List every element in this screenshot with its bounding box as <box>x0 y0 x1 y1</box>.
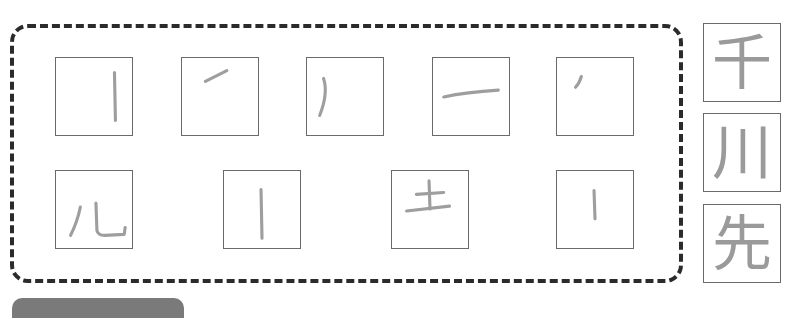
dot-stroke-icon <box>557 58 633 135</box>
vertical-stroke-icon <box>56 58 132 135</box>
stroke-box-horizontal: horizontal line (一) <box>432 57 510 136</box>
answer-kanji-sen-thousand: 千 <box>703 23 781 102</box>
answer-kanji-saki-ahead: 先 <box>703 204 781 283</box>
rising-flick-stroke-icon <box>182 58 258 135</box>
earth-component-icon <box>392 171 468 248</box>
short-vertical-stroke-icon <box>557 171 633 248</box>
stroke-box-er: 儿 <box>55 170 133 249</box>
stroke-box-earth: 土 <box>391 170 469 249</box>
section-tab <box>12 298 184 318</box>
er-component-icon <box>56 171 132 248</box>
horizontal-stroke-icon <box>433 58 509 135</box>
stroke-box-vertical-2: vertical line (丨) <box>223 170 301 249</box>
vertical-stroke-icon <box>224 171 300 248</box>
stroke-box-dot: short left-falling dot (丶) <box>556 57 634 136</box>
stroke-box-vertical: vertical line (丨) <box>55 57 133 136</box>
stroke-box-rising-flick: rising flick (㇀) <box>181 57 259 136</box>
left-falling-stroke-icon <box>307 58 383 135</box>
stroke-box-short-vertical: short vertical line (丨) <box>556 170 634 249</box>
stroke-box-left-falling: left-falling curve (丿) <box>306 57 384 136</box>
answer-kanji-kawa-river: 川 <box>703 113 781 192</box>
